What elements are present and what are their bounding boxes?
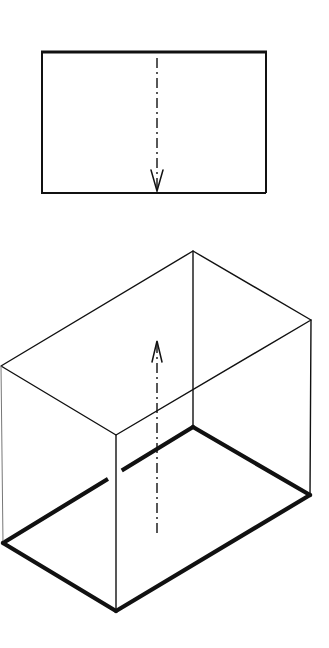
diagram-canvas [0, 0, 329, 648]
box-bottom-back-left-edge [3, 427, 193, 543]
box-right-vertical-edge [310, 320, 311, 495]
box-left-vertical-edge [1, 366, 3, 543]
hidden-line-gap [108, 471, 122, 479]
isometric-box [1, 251, 311, 611]
plan-view [41, 52, 267, 193]
box-bottom-front-right-edge [116, 495, 310, 611]
box-bottom-front-left-edge [3, 543, 116, 611]
box-bottom-back-right-edge [193, 427, 310, 495]
